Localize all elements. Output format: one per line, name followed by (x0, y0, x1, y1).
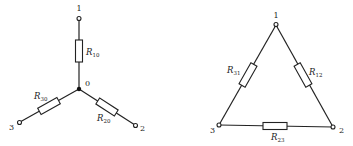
star-node-1-label: 1 (77, 4, 82, 13)
resistor-r31 (239, 63, 257, 87)
resistor-r10 (76, 40, 83, 62)
r10-label: R10 (85, 47, 100, 58)
delta-node-2-label: 2 (339, 126, 344, 135)
delta-terminal-2 (331, 125, 335, 129)
delta-network: 1 2 3 R12 R23 R31 (210, 11, 344, 143)
star-terminal-2 (134, 124, 138, 128)
star-terminal-3 (18, 121, 22, 125)
r23-label: R23 (270, 132, 285, 143)
r12-label: R12 (308, 67, 322, 78)
delta-node-1-label: 1 (274, 11, 279, 20)
star-center-label: 0 (85, 79, 90, 88)
star-node-2-label: 2 (140, 124, 145, 133)
star-node-3-label: 3 (9, 123, 14, 132)
r20-label: R20 (96, 113, 111, 124)
star-delta-diagram: 1 2 3 0 R10 R20 R30 1 2 3 R12 R23 (0, 0, 353, 146)
delta-terminal-3 (217, 123, 221, 127)
star-terminal-1 (77, 17, 81, 21)
star-center-node (77, 87, 81, 91)
delta-terminal-1 (274, 23, 278, 27)
star-network: 1 2 3 0 R10 R20 R30 (9, 4, 145, 133)
delta-node-3-label: 3 (210, 126, 215, 135)
r30-label: R30 (33, 91, 48, 102)
r31-label: R31 (226, 65, 240, 76)
resistor-r23 (263, 123, 287, 130)
